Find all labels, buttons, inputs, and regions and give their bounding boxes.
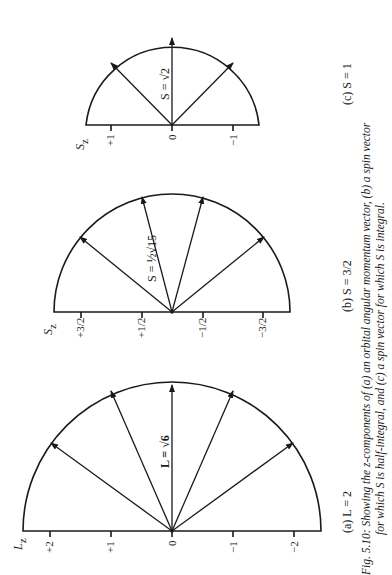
figure-caption-line1: Fig. 5.10: Showing the z-components of (… (360, 123, 372, 575)
vector-a-plus2 (51, 443, 172, 531)
tick-b-minus3half: −3/2 (256, 318, 268, 338)
axis-label-c: Sz (70, 139, 90, 150)
tick-b-plus3half: +3/2 (74, 318, 86, 338)
tick-c-0: 0 (166, 135, 178, 141)
sublabel-c: (c) S = 1 (340, 63, 355, 105)
figure-canvas (0, 0, 392, 575)
tick-a-minus1: −1 (227, 541, 239, 553)
vector-label-c: S = √2 (158, 68, 173, 100)
vector-b-minus3half (172, 237, 264, 312)
tick-a-plus1: +1 (104, 541, 116, 553)
sublabel-b: (b) S = 3/2 (340, 260, 355, 312)
vector-c-minus1 (172, 63, 233, 125)
vector-b-minus1half (172, 197, 203, 312)
axis-label-a: Lz (8, 538, 28, 550)
vector-label-b: S = ½√15 (145, 235, 160, 282)
tick-c-plus1: +1 (104, 134, 116, 146)
axis-label-b: Sz (38, 324, 58, 335)
sublabel-a: (a) L = 2 (340, 491, 355, 533)
vector-a-minus2 (172, 443, 293, 531)
figure-caption-line2: for which S is half-integral, and (c) a … (374, 202, 386, 535)
vector-a-minus1 (172, 391, 233, 531)
panel-b-diagram (54, 194, 290, 318)
tick-a-0: 0 (166, 541, 178, 547)
tick-b-minus1half: −1/2 (196, 318, 208, 338)
vector-label-a: L = √6 (158, 435, 173, 468)
tick-a-plus2: +2 (43, 541, 55, 553)
semicircle-b (54, 194, 290, 312)
tick-c-minus1: −1 (227, 134, 239, 146)
tick-b-plus1half: +1/2 (135, 318, 147, 338)
tick-a-minus2: −2 (288, 541, 300, 553)
